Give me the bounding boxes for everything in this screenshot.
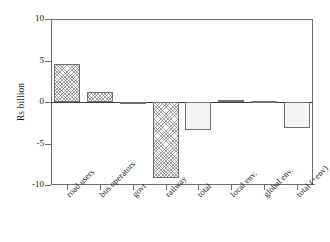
y-axis-tick-label: -10 (0, 179, 44, 190)
bar-railway (153, 102, 179, 178)
bar-road-users (54, 64, 80, 102)
y-axis-tick (45, 144, 51, 145)
y-axis-tick-label: -5 (0, 138, 44, 149)
y-axis-tick-label: 0 (0, 96, 44, 107)
bar-total-env (284, 102, 310, 128)
bar-total (185, 102, 211, 130)
bar-local-env (218, 100, 244, 102)
y-axis-tick-label: 10 (0, 13, 44, 24)
y-axis-tick (45, 185, 51, 186)
y-axis-tick-label-text: 5 (4, 55, 44, 66)
y-axis-tick-label-text: 10 (4, 13, 44, 24)
y-axis-tick-label-text: -5 (4, 138, 44, 149)
bar-global-env (251, 101, 277, 103)
bar-bus-operators (87, 92, 113, 102)
bar-govt (120, 102, 146, 104)
y-axis-tick (45, 61, 51, 62)
y-axis-tick-label-text: -10 (4, 179, 44, 190)
y-axis-tick (45, 19, 51, 20)
y-axis-tick-label: 5 (0, 55, 44, 66)
y-axis-tick-label-text: 0 (4, 96, 44, 107)
